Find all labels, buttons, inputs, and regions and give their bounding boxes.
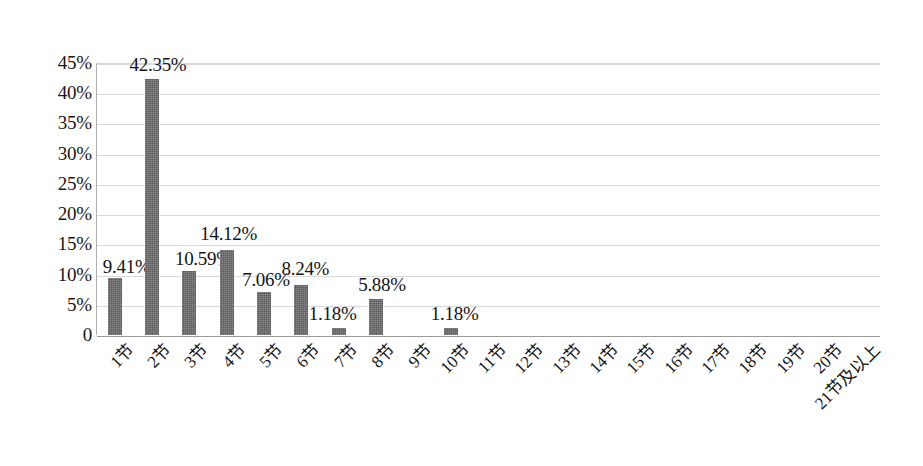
bar-slot (395, 63, 432, 335)
bar[interactable] (257, 292, 271, 335)
bar-chart: 05%10%15%20%25%30%35%40%45% 9.41%42.35%1… (0, 0, 923, 466)
bar-slot (208, 63, 245, 335)
bar[interactable] (444, 328, 458, 335)
x-category-label: 16节 (661, 341, 697, 377)
x-category-label: 7节 (331, 341, 361, 371)
y-tick-label: 5% (2, 295, 92, 314)
bar-slot (768, 63, 805, 335)
y-tick-label: 20% (2, 204, 92, 223)
x-category-label: 19节 (773, 341, 809, 377)
bar-slot (469, 63, 506, 335)
x-category-label: 14节 (586, 341, 622, 377)
bar[interactable] (220, 250, 234, 335)
bar[interactable] (294, 285, 308, 335)
y-tick-label: 35% (2, 113, 92, 132)
x-category-label: 6节 (294, 341, 324, 371)
bar[interactable] (108, 278, 122, 335)
bar[interactable] (182, 271, 196, 335)
bars-layer: 9.41%42.35%10.59%14.12%7.06%8.24%1.18%5.… (96, 63, 880, 335)
bar[interactable] (332, 328, 346, 335)
bar[interactable] (369, 299, 383, 335)
bar-slot (581, 63, 618, 335)
x-category-label: 3节 (182, 341, 212, 371)
bar-slot (731, 63, 768, 335)
x-axis-category-labels: 1节2节3节4节5节6节7节8节9节10节11节12节13节14节15节16节1… (96, 335, 880, 466)
y-tick-label: 0 (2, 325, 92, 344)
bar-slot (693, 63, 730, 335)
y-axis-tick-labels: 05%10%15%20%25%30%35%40%45% (0, 63, 92, 335)
y-tick-label: 25% (2, 174, 92, 193)
y-tick-label: 30% (2, 144, 92, 163)
x-category-label: 1节 (107, 341, 137, 371)
bar-slot (245, 63, 282, 335)
x-category-label: 8节 (368, 341, 398, 371)
x-category-label: 15节 (624, 341, 660, 377)
y-tick-label: 10% (2, 265, 92, 284)
x-category-label: 4节 (219, 341, 249, 371)
bar-slot (283, 63, 320, 335)
bar-slot (96, 63, 133, 335)
bar-slot (619, 63, 656, 335)
bar-slot (656, 63, 693, 335)
bar[interactable] (145, 79, 159, 335)
x-category-label: 9节 (406, 341, 436, 371)
bar-slot (843, 63, 880, 335)
bar-slot (507, 63, 544, 335)
bar-data-label: 1.18% (309, 304, 357, 324)
x-category-label: 10节 (437, 341, 473, 377)
x-category-label: 5节 (256, 341, 286, 371)
x-category-label: 13节 (549, 341, 585, 377)
x-category-label: 11节 (475, 341, 511, 377)
x-category-label: 12节 (512, 341, 548, 377)
x-category-label: 18节 (736, 341, 772, 377)
x-category-label: 2节 (144, 341, 174, 371)
bar-slot (171, 63, 208, 335)
bar-slot (320, 63, 357, 335)
y-tick-label: 40% (2, 83, 92, 102)
x-category-label: 17节 (698, 341, 734, 377)
bar-slot (133, 63, 170, 335)
y-tick-label: 45% (2, 53, 92, 72)
bar-slot (432, 63, 469, 335)
bar-slot (544, 63, 581, 335)
bar-slot (805, 63, 842, 335)
y-tick-label: 15% (2, 234, 92, 253)
